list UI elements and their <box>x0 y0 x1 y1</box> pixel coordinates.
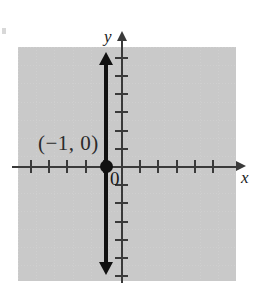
y-axis-tick <box>115 239 128 241</box>
plot-arrow-down-icon <box>99 262 113 275</box>
x-axis <box>12 166 239 168</box>
y-axis-arrow-icon <box>117 31 127 41</box>
y-axis-label: y <box>104 27 112 47</box>
y-axis-tick <box>115 202 128 204</box>
y-axis-tick <box>115 57 128 59</box>
point-coordinate-label: (−1, 0) <box>38 131 99 156</box>
x-axis-label: x <box>241 168 249 188</box>
x-axis-tick <box>30 160 32 173</box>
x-axis-tick <box>176 160 178 173</box>
y-axis-tick <box>115 111 128 113</box>
x-axis-tick <box>194 160 196 173</box>
origin-label: 0 <box>110 168 120 190</box>
y-axis-tick <box>115 93 128 95</box>
y-axis-tick <box>115 148 128 150</box>
y-axis-tick <box>115 275 128 277</box>
x-axis-tick <box>212 160 214 173</box>
y-axis-tick <box>115 130 128 132</box>
x-axis-tick <box>48 160 50 173</box>
graph-figure: x y (−1, 0) 0 <box>0 0 259 293</box>
y-axis-tick <box>115 75 128 77</box>
grid-horizontal-lines <box>18 47 236 281</box>
y-axis-tick <box>115 221 128 223</box>
scan-artifact-mark <box>2 28 6 34</box>
x-axis-tick <box>85 160 87 173</box>
plot-arrow-up-icon <box>99 52 113 65</box>
y-axis-tick <box>115 257 128 259</box>
x-axis-tick <box>139 160 141 173</box>
x-axis-tick <box>157 160 159 173</box>
x-axis-tick <box>66 160 68 173</box>
